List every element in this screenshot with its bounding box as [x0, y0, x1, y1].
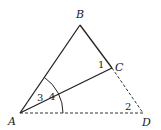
point-label-D: D	[141, 116, 151, 129]
segment-BC	[80, 25, 112, 68]
point-label-B: B	[75, 8, 84, 21]
angle-label-2: 2	[125, 101, 131, 112]
point-label-C: C	[115, 61, 124, 74]
angle-label-4: 4	[49, 91, 55, 102]
angle-label-3: 3	[37, 92, 43, 103]
point-label-A: A	[7, 115, 16, 128]
angle-label-1: 1	[98, 59, 104, 70]
segment-AC	[20, 68, 112, 113]
geometry-diagram: B C A D 1 2 3 4	[0, 0, 161, 130]
